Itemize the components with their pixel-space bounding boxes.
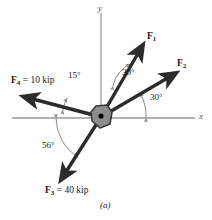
force-label-f2: F2 — [177, 59, 186, 70]
diagram-canvas — [0, 0, 212, 220]
x-axis-label: x — [199, 112, 203, 121]
arc-f2-x — [140, 93, 146, 118]
force-vector-f4 — [29, 98, 101, 117]
force-label-f4: F4 = 10 kip — [11, 76, 54, 87]
angle-label-f3-x: 56° — [42, 141, 55, 150]
figure-caption: (a) — [100, 201, 111, 210]
y-axis-label: y — [98, 4, 102, 13]
force-label-f3: F3 = 40 kip — [45, 186, 88, 197]
force-label-f1: F1 — [147, 32, 156, 43]
angle-label-f2-x: 30° — [150, 93, 163, 102]
arc-f3-x — [56, 118, 78, 157]
pin-joint — [98, 113, 103, 118]
force-vector-f3 — [64, 117, 101, 175]
angle-label-f1-f2: 30° — [122, 68, 135, 77]
angle-label-f4-x: 15° — [68, 71, 81, 80]
force-diagram-figure: F1 F2 F3 = 40 kip F4 = 10 kip 30° 30° 15… — [0, 0, 212, 220]
